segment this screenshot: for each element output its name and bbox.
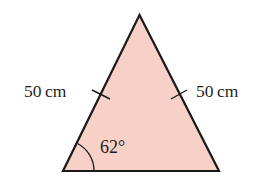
left-side-length-label: 50 cm <box>24 81 67 101</box>
base-angle-label: 62° <box>100 137 125 157</box>
right-side-length-label: 50 cm <box>196 81 239 101</box>
isosceles-triangle-diagram: 50 cm 50 cm 62° <box>0 0 267 177</box>
